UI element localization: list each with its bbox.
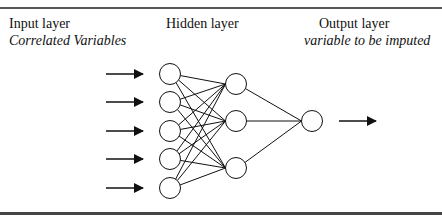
input-node-4 bbox=[160, 149, 181, 170]
connection-line bbox=[245, 121, 302, 162]
connection-line bbox=[245, 89, 301, 121]
connection-line bbox=[179, 136, 225, 168]
input-node-3 bbox=[160, 121, 181, 142]
output-node-1 bbox=[302, 111, 323, 132]
hidden-node-1 bbox=[226, 74, 247, 95]
input-node-1 bbox=[160, 64, 181, 85]
network-diagram bbox=[0, 0, 442, 216]
connection-line bbox=[180, 76, 225, 84]
hidden-node-3 bbox=[226, 158, 247, 179]
connection-line bbox=[180, 105, 225, 121]
nodes bbox=[160, 64, 323, 199]
input-node-5 bbox=[160, 178, 181, 199]
connection-line bbox=[179, 121, 225, 154]
connection-line bbox=[180, 168, 225, 185]
connection-line bbox=[180, 160, 225, 168]
hidden-node-2 bbox=[226, 111, 247, 132]
input-node-2 bbox=[160, 92, 181, 113]
